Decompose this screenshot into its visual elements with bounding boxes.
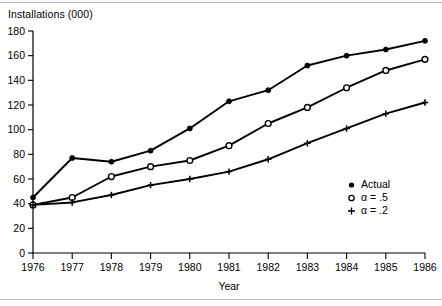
legend-label: α = .2 xyxy=(358,204,388,217)
y-tick-label: 80 xyxy=(13,148,25,160)
data-point-marker xyxy=(187,176,193,182)
y-tick-label: 180 xyxy=(7,25,25,37)
data-point-marker xyxy=(304,140,310,146)
y-tick-label: 60 xyxy=(13,173,25,185)
data-point-marker xyxy=(226,168,232,174)
y-tick-labels: 180160140120100806040200 xyxy=(7,25,25,259)
axis-lines xyxy=(33,31,425,253)
data-point-marker xyxy=(383,68,389,74)
x-tick-label: 1977 xyxy=(61,261,85,273)
x-tick-label: 1976 xyxy=(21,261,45,273)
chart-legend: Actualα = .5α = .2 xyxy=(344,178,390,217)
data-point-marker xyxy=(383,110,389,116)
x-tick-label: 1983 xyxy=(296,261,320,273)
data-point-marker xyxy=(423,38,428,43)
chart-figure: Installations (000) 18016014012010080604… xyxy=(0,0,442,306)
x-tick-label: 1985 xyxy=(374,261,398,273)
series-1 xyxy=(31,38,428,200)
data-point-marker xyxy=(109,159,114,164)
x-axis-title: Year xyxy=(33,280,425,292)
y-tick-label: 40 xyxy=(13,197,25,209)
data-point-marker xyxy=(31,195,36,200)
x-tick-labels: 1976197719781979198019811982198319841985… xyxy=(21,261,437,273)
data-point-marker xyxy=(108,192,114,198)
filled-circle-icon xyxy=(344,179,358,190)
legend-item: α = .5 xyxy=(344,191,390,204)
data-point-marker xyxy=(187,158,193,164)
open-circle-icon xyxy=(344,192,358,203)
x-tick-label: 1979 xyxy=(139,261,163,273)
data-point-marker xyxy=(422,99,428,105)
y-tick-label: 100 xyxy=(7,123,25,135)
data-point-marker xyxy=(227,99,232,104)
data-point-marker xyxy=(187,126,192,131)
legend-item: α = .2 xyxy=(344,204,390,217)
data-point-marker xyxy=(148,164,154,170)
data-point-marker xyxy=(109,174,115,180)
legend-label: α = .5 xyxy=(358,191,388,204)
data-point-marker xyxy=(305,105,311,111)
data-point-marker xyxy=(344,53,349,58)
y-tick-label: 140 xyxy=(7,74,25,86)
y-tick-label: 120 xyxy=(7,99,25,111)
plot-area: 180160140120100806040200 197619771978197… xyxy=(0,0,442,306)
data-point-marker xyxy=(265,121,271,127)
x-tick-label: 1982 xyxy=(257,261,281,273)
y-tick-label: 0 xyxy=(19,247,25,259)
data-point-marker xyxy=(305,63,310,68)
data-point-marker xyxy=(344,85,350,91)
data-point-marker xyxy=(343,125,349,131)
plus-icon xyxy=(344,205,358,216)
data-point-marker xyxy=(226,143,232,149)
data-point-marker xyxy=(265,156,271,162)
x-tick-label: 1981 xyxy=(217,261,241,273)
x-tick-label: 1980 xyxy=(178,261,202,273)
y-tick-label: 20 xyxy=(13,222,25,234)
data-point-marker xyxy=(266,88,271,93)
legend-label: Actual xyxy=(358,178,390,191)
data-point-marker xyxy=(147,182,153,188)
data-point-marker xyxy=(70,156,75,161)
x-tick-label: 1986 xyxy=(413,261,437,273)
y-tick-label: 160 xyxy=(7,49,25,61)
x-tick-label: 1984 xyxy=(335,261,359,273)
data-point-marker xyxy=(148,148,153,153)
data-point-marker xyxy=(422,56,428,62)
x-tick-label: 1978 xyxy=(100,261,124,273)
data-point-marker xyxy=(383,47,388,52)
legend-item: Actual xyxy=(344,178,390,191)
